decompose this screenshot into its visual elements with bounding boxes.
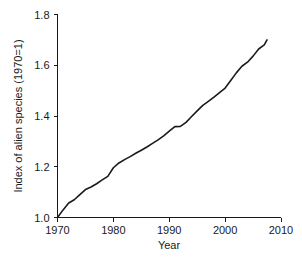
x-axis-title: Year [158,239,181,251]
y-axis-ticks [54,15,58,218]
x-tick-label: 2000 [213,224,237,236]
data-series-line [58,40,268,218]
x-tick-label: 1990 [157,224,181,236]
line-chart: 1.01.21.41.61.8 19701980199020002010 Yea… [0,0,302,258]
x-axis-tick-labels: 19701980199020002010 [45,224,293,236]
x-axis-ticks [58,218,282,222]
x-tick-label: 1980 [101,224,125,236]
y-tick-label: 1.8 [34,9,49,21]
x-tick-label: 2010 [269,224,293,236]
y-axis-title: Index of alien species (1970=1) [12,39,24,192]
chart-figure: 1.01.21.41.61.8 19701980199020002010 Yea… [0,0,302,258]
x-tick-label: 1970 [45,224,69,236]
y-tick-label: 1.2 [34,161,49,173]
y-axis-tick-labels: 1.01.21.41.61.8 [34,9,49,224]
y-tick-label: 1.0 [34,212,49,224]
y-tick-label: 1.4 [34,110,49,122]
y-tick-label: 1.6 [34,59,49,71]
